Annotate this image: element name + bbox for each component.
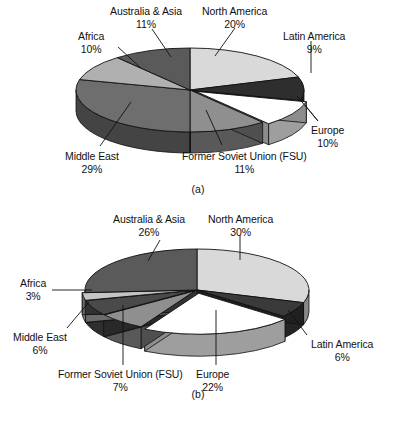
label-fsu-a-pct: 11% (182, 163, 307, 176)
caption-b: (b) (178, 388, 218, 400)
label-africa-a-name: Africa (78, 30, 104, 42)
label-fsu-b-name: Former Soviet Union (FSU) (58, 368, 183, 380)
label-fsu-a-name: Former Soviet Union (FSU) (182, 150, 307, 162)
label-latin-america-b-pct: 6% (311, 351, 373, 364)
label-africa-b: Africa 3% (20, 277, 46, 302)
label-middle-east-b: Middle East 6% (13, 331, 67, 356)
label-middle-east-b-pct: 6% (13, 344, 67, 357)
label-north-america-b-pct: 30% (208, 226, 273, 239)
label-fsu-a: Former Soviet Union (FSU) 11% (182, 150, 307, 175)
label-north-america-b-name: North America (208, 213, 273, 225)
pie-chart-a: Africa 10% Australia & Asia 11% North Am… (0, 0, 397, 210)
label-middle-east-a-pct: 29% (65, 163, 119, 176)
label-latin-america-a-name: Latin America (283, 30, 345, 42)
label-africa-a-pct: 10% (78, 43, 104, 56)
label-north-america-a-name: North America (202, 5, 267, 17)
pie-slice-top (85, 249, 197, 293)
label-latin-america-b-name: Latin America (311, 338, 373, 350)
label-europe-a: Europe 10% (311, 124, 344, 149)
label-australia-asia-a: Australia & Asia 11% (110, 5, 182, 30)
label-australia-asia-b-name: Australia & Asia (113, 213, 185, 225)
pie-a-slice-group (76, 48, 306, 153)
label-latin-america-b: Latin America 6% (311, 338, 373, 363)
label-latin-america-a-pct: 9% (283, 43, 345, 56)
label-africa-b-pct: 3% (20, 290, 46, 303)
label-latin-america-a: Latin America 9% (283, 30, 345, 55)
label-europe-a-name: Europe (311, 124, 344, 136)
leader-europe-a-lower (305, 105, 318, 121)
label-europe-a-pct: 10% (311, 137, 344, 150)
label-north-america-b: North America 30% (208, 213, 273, 238)
label-north-america-a-pct: 20% (202, 18, 267, 31)
label-australia-asia-b: Australia & Asia 26% (113, 213, 185, 238)
label-middle-east-a-name: Middle East (65, 150, 119, 162)
caption-a: (a) (178, 183, 218, 195)
label-africa-b-name: Africa (20, 277, 46, 289)
label-africa-a: Africa 10% (78, 30, 104, 55)
label-fsu-b: Former Soviet Union (FSU) 7% (58, 368, 183, 393)
label-australia-asia-a-name: Australia & Asia (110, 5, 182, 17)
label-europe-b-name: Europe (196, 368, 229, 380)
label-middle-east-a: Middle East 29% (65, 150, 119, 175)
label-australia-asia-b-pct: 26% (113, 226, 185, 239)
label-middle-east-b-name: Middle East (13, 331, 67, 343)
pie-chart-b: Australia & Asia 26% North America 30% A… (0, 205, 397, 423)
pie-b-slice-group (82, 249, 309, 356)
label-australia-asia-a-pct: 11% (110, 18, 182, 31)
label-north-america-a: North America 20% (202, 5, 267, 30)
label-fsu-b-pct: 7% (58, 381, 183, 394)
